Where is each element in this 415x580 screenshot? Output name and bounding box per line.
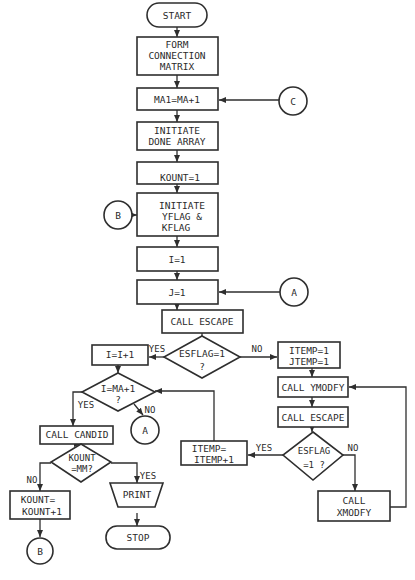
node-text: KOUNT+1 <box>22 506 62 517</box>
node-text: YFLAG & <box>162 211 202 222</box>
node-text: ITEMP= <box>192 443 227 454</box>
node-text: ? <box>115 394 121 405</box>
node-text: CALL ESCAPE <box>282 412 345 423</box>
node-text: PRINT <box>123 489 152 500</box>
node-call-escape-2: CALL ESCAPE <box>278 407 348 427</box>
node-text: DONE ARRAY <box>148 136 205 147</box>
node-text: KOUNT=1 <box>160 172 200 183</box>
node-text: XMODFY <box>337 507 372 518</box>
node-text: MATRIX <box>160 61 195 72</box>
node-text: JTEMP=1 <box>289 356 329 367</box>
decision-esflag-1: ESFLAG=1 ? <box>164 336 240 378</box>
node-print: PRINT <box>110 483 163 507</box>
node-text: FORM <box>166 39 189 50</box>
node-itemp-increment: ITEMP= ITEMP+1 <box>181 441 247 465</box>
node-text: =MM? <box>71 464 93 474</box>
node-text: STOP <box>127 532 150 543</box>
node-i-increment: I=I+1 <box>92 345 148 365</box>
edge-label-no: NO <box>27 475 38 485</box>
node-text: J=1 <box>168 287 185 298</box>
node-text: CALL CANDID <box>46 429 109 440</box>
node-j1: J=1 <box>137 280 218 304</box>
node-text: INITIATE <box>159 200 205 211</box>
connector-b-out: B <box>27 538 53 564</box>
node-text: ITEMP+1 <box>194 454 234 465</box>
node-text: ESFLAG <box>298 446 331 456</box>
node-stop: STOP <box>106 526 170 549</box>
decision-esflag-2: ESFLAG =1 ? <box>283 432 343 480</box>
node-text: I=MA+1 <box>101 383 136 394</box>
node-itemp-init: ITEMP=1 JTEMP=1 <box>278 342 340 368</box>
node-text: CONNECTION <box>148 50 205 61</box>
connector-label: A <box>142 425 148 436</box>
connector-label: B <box>115 210 121 221</box>
edge-label-no: NO <box>348 443 359 453</box>
node-call-ymodfy: CALL YMODFY <box>278 377 348 397</box>
decision-kount-mm: KOUNT =MM? <box>51 444 111 482</box>
node-initiate-done-array: INITIATE DONE ARRAY <box>137 122 218 150</box>
connector-label: A <box>291 287 297 298</box>
node-initiate-flags: INITIATE YFLAG & KFLAG <box>137 193 218 236</box>
node-text: I=I+1 <box>106 349 135 360</box>
connector-c-in: C <box>279 87 307 115</box>
node-form-connection-matrix: FORM CONNECTION MATRIX <box>137 37 218 75</box>
connector-a-in: A <box>280 278 308 306</box>
flowchart: START FORM CONNECTION MATRIX MA1=MA+1 C … <box>0 0 415 580</box>
node-text: INITIATE <box>154 125 200 136</box>
edge-label-yes: YES <box>78 400 94 410</box>
edge-label-yes: YES <box>149 344 165 354</box>
connector-label: C <box>290 96 296 107</box>
edge-label-no: NO <box>252 344 263 354</box>
node-text: KOUNT= <box>21 494 56 505</box>
node-call-escape-1: CALL ESCAPE <box>162 310 243 333</box>
edge-label-no: NO <box>145 405 156 415</box>
node-text: CALL YMODFY <box>282 382 345 393</box>
connector-a-out: A <box>131 416 159 444</box>
edge-label-yes: YES <box>256 443 272 453</box>
node-text: KFLAG <box>162 222 191 233</box>
node-text: CALL ESCAPE <box>171 316 234 327</box>
node-ma1: MA1=MA+1 <box>137 88 218 110</box>
node-i1: I=1 <box>137 247 218 271</box>
node-call-candid: CALL CANDID <box>40 426 113 444</box>
connector-label: B <box>37 546 43 557</box>
node-call-xmodfy: CALL XMODFY <box>318 491 390 521</box>
edge-label-yes: YES <box>140 471 156 481</box>
node-text: ? <box>199 361 205 372</box>
node-text: ESFLAG=1 <box>179 348 225 359</box>
node-text: =1 ? <box>303 460 325 470</box>
connector-b-in: B <box>104 201 132 229</box>
node-text: ITEMP=1 <box>289 345 329 356</box>
start-label: START <box>163 10 192 21</box>
node-kount-increment: KOUNT= KOUNT+1 <box>10 491 70 519</box>
node-text: I=1 <box>168 254 185 265</box>
node-text: CALL <box>343 495 366 506</box>
node-text: MA1=MA+1 <box>154 94 200 105</box>
node-kount1: KOUNT=1 <box>137 162 218 184</box>
node-text: KOUNT <box>68 453 96 463</box>
node-start: START <box>147 3 207 27</box>
